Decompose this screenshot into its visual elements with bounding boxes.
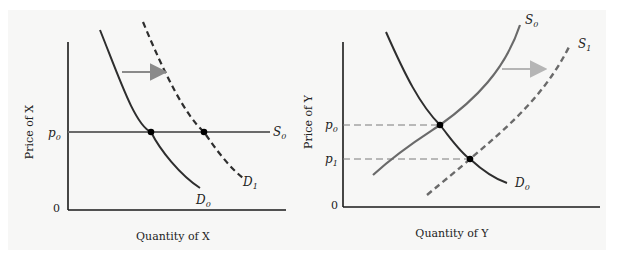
right-demand-curve-d0: [386, 32, 507, 183]
right-price-tick-p1: p1: [325, 152, 338, 168]
right-chart: 0 p0 p1 S0 S1 D0 Price of Y Quantity of …: [302, 13, 600, 240]
right-price-tick-p0: p0: [325, 118, 338, 134]
left-equilibrium-dot-1: [201, 129, 208, 136]
left-equilibrium-dot-0: [148, 129, 155, 136]
right-supply-curve-s0: [373, 25, 520, 175]
right-demand-label-d0: D0: [514, 176, 530, 192]
right-y-axis-label: Price of Y: [302, 94, 315, 149]
right-equilibrium-dot-0: [437, 122, 444, 129]
left-demand-curve-d0: [100, 30, 200, 188]
supply-demand-figure: 0 p0 S0 D0 D1 Price of X Quantity of X 0…: [0, 0, 618, 267]
right-equilibrium-dot-1: [467, 156, 474, 163]
left-demand-curve-d1: [143, 22, 243, 178]
right-x-axis-label: Quantity of Y: [415, 227, 489, 240]
left-x-axis-label: Quantity of X: [136, 230, 210, 243]
left-origin-label: 0: [53, 202, 60, 215]
right-supply-label-s0: S0: [525, 13, 538, 29]
right-origin-label: 0: [331, 199, 338, 212]
left-demand-label-d0: D0: [195, 193, 211, 209]
left-supply-label-s0: S0: [273, 125, 286, 141]
right-supply-label-s1: S1: [578, 37, 591, 53]
left-y-axis-label: Price of X: [23, 105, 36, 160]
left-chart: 0 p0 S0 D0 D1 Price of X Quantity of X: [23, 22, 286, 243]
left-price-tick-p0: p0: [48, 126, 61, 142]
left-demand-curve-d0-smooth: [100, 30, 151, 132]
left-demand-label-d1: D1: [242, 175, 258, 191]
